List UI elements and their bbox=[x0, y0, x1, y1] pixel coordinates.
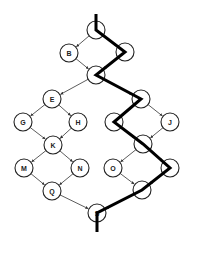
node-label: Q bbox=[49, 188, 55, 196]
edge-k-n bbox=[60, 151, 73, 162]
node-e: E bbox=[43, 90, 61, 108]
edge-n-q bbox=[59, 174, 73, 185]
node-q: Q bbox=[43, 182, 61, 200]
edge-a-b bbox=[76, 36, 89, 47]
edge-j-l bbox=[150, 128, 163, 138]
node-label: J bbox=[168, 119, 172, 126]
edge-o-r bbox=[120, 173, 134, 184]
edge-k-m bbox=[31, 151, 46, 163]
node-label: N bbox=[77, 165, 82, 172]
node-n: N bbox=[71, 159, 89, 177]
node-b: B bbox=[60, 44, 78, 62]
edge-d-e bbox=[60, 79, 88, 94]
graph-diagram: BEGHJKMNOQS bbox=[0, 0, 204, 254]
node-label: M bbox=[21, 165, 27, 172]
node-group: BEGHJKMNOQS bbox=[14, 21, 179, 222]
edge-h-k bbox=[60, 128, 71, 138]
node-label: B bbox=[66, 50, 71, 57]
node-label: E bbox=[50, 96, 55, 103]
node-h: H bbox=[69, 113, 87, 131]
edge-f-j bbox=[148, 105, 163, 117]
edge-e-h bbox=[59, 105, 71, 116]
edge-l-o bbox=[120, 150, 136, 162]
node-j: J bbox=[161, 113, 179, 131]
node-label: O bbox=[110, 165, 116, 172]
node-m: M bbox=[15, 159, 33, 177]
node-g: G bbox=[14, 113, 32, 131]
node-k: K bbox=[44, 136, 62, 154]
edge-q-s bbox=[60, 195, 88, 209]
edge-g-k bbox=[30, 127, 45, 139]
edge-m-q bbox=[31, 174, 45, 185]
node-label: H bbox=[75, 119, 80, 126]
node-o: O bbox=[104, 159, 122, 177]
edge-b-d bbox=[76, 59, 89, 69]
node-label: K bbox=[50, 142, 55, 149]
node-label: G bbox=[20, 119, 26, 126]
edge-e-g bbox=[30, 105, 45, 117]
